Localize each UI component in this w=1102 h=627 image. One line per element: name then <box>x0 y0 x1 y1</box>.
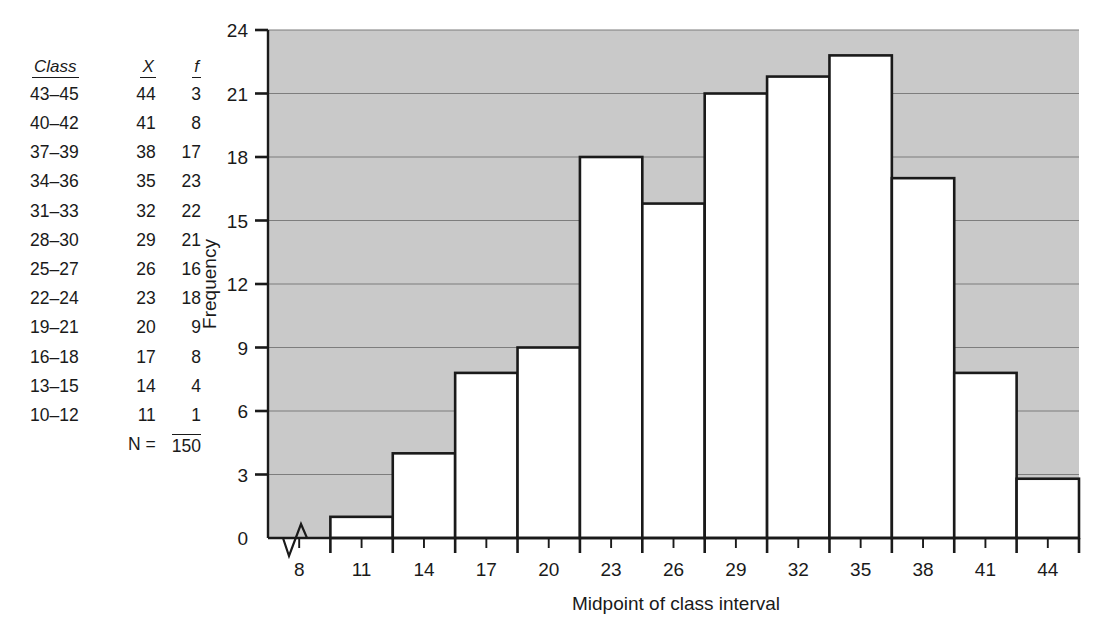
y-tick-label: 6 <box>237 401 248 422</box>
x-tick-label: 38 <box>912 559 933 580</box>
x-axis-title: Midpoint of class interval <box>572 593 780 614</box>
y-ticks-group <box>255 30 268 475</box>
y-tick-label: 12 <box>227 274 248 295</box>
histogram-bar <box>892 178 954 538</box>
x-tick-label: 29 <box>725 559 746 580</box>
y-tick-label: 24 <box>227 20 249 41</box>
x-ticks-group <box>299 538 1079 553</box>
histogram-bar <box>393 453 455 538</box>
x-tick-label: 35 <box>850 559 871 580</box>
histogram-bar <box>518 348 580 539</box>
histogram-bar <box>330 517 392 538</box>
x-tick-label: 17 <box>476 559 497 580</box>
histogram-bar <box>954 373 1016 538</box>
histogram-svg: 03691215182124 8111417202326293235384144… <box>0 0 1102 627</box>
histogram-chart: 03691215182124 8111417202326293235384144… <box>0 0 1102 627</box>
x-tick-label: 11 <box>352 559 372 580</box>
x-tick-label: 8 <box>294 559 305 580</box>
y-tick-label: 3 <box>237 465 248 486</box>
x-tick-label: 41 <box>975 559 996 580</box>
x-tick-label: 14 <box>413 559 435 580</box>
y-tick-labels-group: 03691215182124 <box>227 20 249 549</box>
histogram-bar <box>642 204 704 538</box>
y-tick-label: 18 <box>227 147 248 168</box>
y-axis-title: Frequency <box>199 239 220 329</box>
x-tick-label: 44 <box>1037 559 1059 580</box>
x-tick-label: 26 <box>663 559 684 580</box>
y-tick-label: 9 <box>237 338 248 359</box>
y-tick-label: 15 <box>227 211 248 232</box>
x-tick-label: 32 <box>788 559 809 580</box>
y-tick-label: 0 <box>237 528 248 549</box>
x-tick-label: 23 <box>601 559 622 580</box>
x-tick-labels-group: 8111417202326293235384144 <box>294 559 1059 580</box>
histogram-bar <box>705 94 767 539</box>
histogram-bar <box>829 55 891 538</box>
histogram-bar <box>455 373 517 538</box>
histogram-bar <box>767 77 829 538</box>
y-tick-label: 21 <box>227 84 248 105</box>
x-tick-label: 20 <box>538 559 559 580</box>
histogram-bar <box>1017 479 1079 538</box>
histogram-bar <box>580 157 642 538</box>
